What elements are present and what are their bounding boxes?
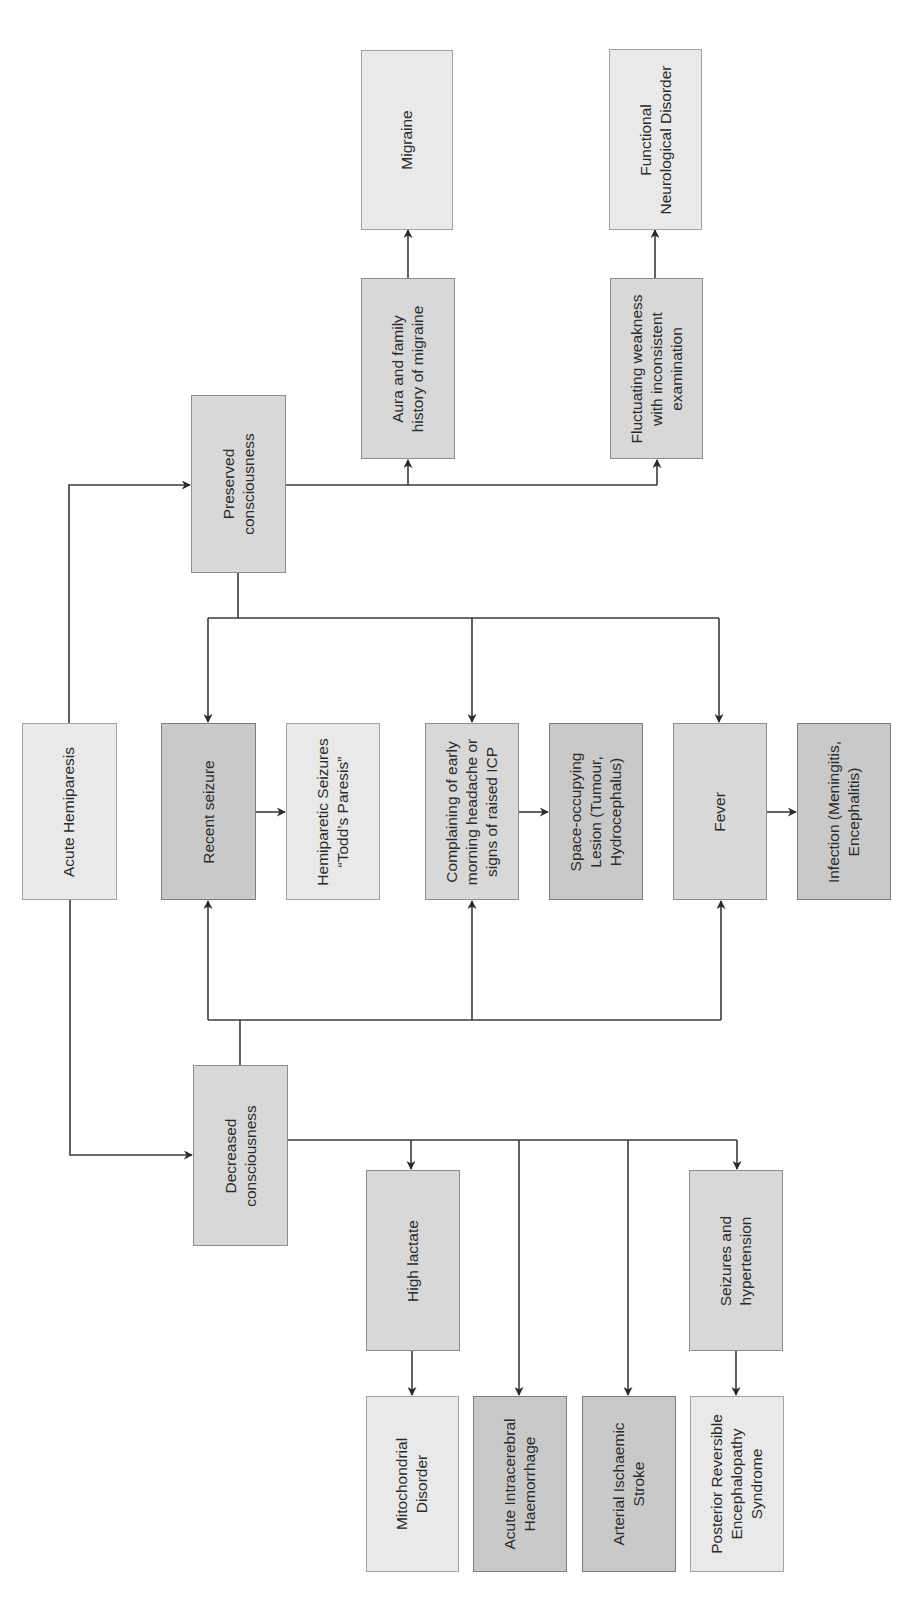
node-fever: Fever	[673, 723, 767, 900]
node-label: Infection (Meningitis, Encephalitis)	[824, 740, 864, 882]
node-decreased-consciousness: Decreased consciousness	[193, 1065, 288, 1246]
node-space-occupying-lesion: Space-occupying Lesion (Tumour, Hydrocep…	[549, 723, 643, 900]
flowchart-canvas: Migraine Functional Neurological Disorde…	[0, 0, 897, 1602]
node-acute-hemiparesis: Acute Hemiparesis	[22, 723, 117, 900]
node-mitochondrial-disorder: Mitochondrial Disorder	[366, 1396, 459, 1572]
node-seizures-hypertension: Seizures and hypertension	[689, 1170, 783, 1351]
node-raised-icp: Complaining of early morning headache or…	[425, 723, 519, 900]
node-preserved-consciousness: Preserved consciousness	[191, 395, 286, 573]
node-label: Acute Intracerebral Haemorrhage	[500, 1419, 540, 1550]
edge-hemiparesis-to-preserved	[69, 485, 190, 723]
node-pres: Posterior Reversible Encephalopathy Synd…	[690, 1396, 784, 1572]
node-label: Decreased consciousness	[221, 1105, 261, 1207]
node-label: Fever	[710, 792, 730, 832]
node-label: Space-occupying Lesion (Tumour, Hydrocep…	[566, 752, 626, 871]
node-intracerebral-haemorrhage: Acute Intracerebral Haemorrhage	[473, 1396, 567, 1572]
node-label: Hemiparetic Seizures “Todd’s Paresis”	[313, 738, 353, 885]
node-fluctuating-weakness: Fluctuating weakness with inconsistent e…	[610, 278, 703, 459]
node-label: Preserved consciousness	[219, 433, 259, 535]
node-label: Aura and family history of migraine	[388, 305, 428, 432]
node-label: High lactate	[403, 1220, 423, 1302]
node-functional-neurological-disorder: Functional Neurological Disorder	[609, 49, 702, 230]
node-aura-family-history: Aura and family history of migraine	[361, 278, 455, 459]
node-label: Seizures and hypertension	[716, 1215, 756, 1305]
node-label: Migraine	[397, 110, 417, 169]
node-migraine: Migraine	[361, 50, 453, 230]
node-label: Arterial Ischaemic Stroke	[609, 1422, 649, 1545]
node-label: Posterior Reversible Encephalopathy Synd…	[707, 1414, 767, 1554]
node-label: Complaining of early morning headache or…	[442, 738, 502, 885]
node-arterial-ischaemic-stroke: Arterial Ischaemic Stroke	[582, 1396, 676, 1572]
node-infection: Infection (Meningitis, Encephalitis)	[797, 723, 891, 900]
node-label: Recent seizure	[199, 760, 219, 863]
node-high-lactate: High lactate	[366, 1170, 460, 1351]
node-todds-paresis: Hemiparetic Seizures “Todd’s Paresis”	[286, 723, 380, 900]
node-label: Mitochondrial Disorder	[393, 1438, 433, 1530]
node-label: Functional Neurological Disorder	[636, 65, 676, 214]
node-label: Acute Hemiparesis	[60, 746, 80, 876]
edge-hemiparesis-to-decreased	[70, 900, 192, 1155]
node-recent-seizure: Recent seizure	[161, 723, 256, 900]
node-label: Fluctuating weakness with inconsistent e…	[627, 294, 687, 443]
